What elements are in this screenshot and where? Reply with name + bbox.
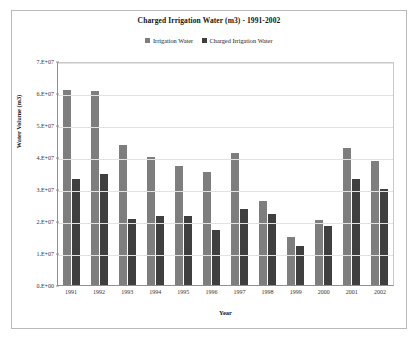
gridline xyxy=(58,191,393,192)
bar xyxy=(343,148,351,285)
legend-item-charged-irrigation-water: Charged Irrigation Water xyxy=(202,37,272,44)
x-axis-tick-labels: 1991199219931994199519961997199819992000… xyxy=(57,289,394,295)
y-axis-tick-label: 0.E+00 xyxy=(36,283,54,289)
bars-layer xyxy=(58,63,393,285)
y-axis-tick-mark xyxy=(56,222,59,223)
chart-legend: Irrigation Water Charged Irrigation Wate… xyxy=(0,37,418,44)
gridline xyxy=(58,95,393,96)
legend-label-charged-irrigation-water: Charged Irrigation Water xyxy=(210,37,273,44)
y-axis-tick-label: 5.E+07 xyxy=(36,123,54,129)
y-axis-tick-mark xyxy=(56,254,59,255)
x-axis-tick-label: 1998 xyxy=(254,289,282,295)
gridline xyxy=(58,255,393,256)
bar-group xyxy=(142,63,170,285)
legend-label-irrigation-water: Irrigation Water xyxy=(153,37,193,44)
y-axis-tick-label: 6.E+07 xyxy=(36,91,54,97)
bar xyxy=(184,216,192,285)
bar-group xyxy=(337,63,365,285)
bar xyxy=(203,172,211,285)
bar-group xyxy=(114,63,142,285)
x-axis-tick-label: 1991 xyxy=(57,289,85,295)
bar xyxy=(352,179,360,285)
y-axis-tick-mark xyxy=(56,94,59,95)
x-axis-tick-label: 2002 xyxy=(366,289,394,295)
chart-title: Charged Irrigation Water (m3) - 1991-200… xyxy=(0,16,418,25)
plot-area xyxy=(57,62,394,286)
bar xyxy=(147,157,155,285)
bar-group xyxy=(365,63,393,285)
bar-group xyxy=(198,63,226,285)
gridline xyxy=(58,127,393,128)
gridline xyxy=(58,223,393,224)
y-axis-title: Water Volume (m3) xyxy=(15,62,22,182)
legend-item-irrigation-water: Irrigation Water xyxy=(145,37,193,44)
x-axis-tick-label: 1999 xyxy=(282,289,310,295)
bar xyxy=(240,209,248,285)
bar xyxy=(72,179,80,285)
x-axis-tick-label: 2000 xyxy=(310,289,338,295)
x-axis-tick-label: 1997 xyxy=(225,289,253,295)
y-axis-tick-label: 1.E+07 xyxy=(36,251,54,257)
bar xyxy=(380,189,388,285)
bar xyxy=(212,230,220,285)
bar xyxy=(156,216,164,285)
bar xyxy=(268,214,276,285)
x-axis-tick-label: 1994 xyxy=(141,289,169,295)
bar-group xyxy=(281,63,309,285)
bar xyxy=(287,237,295,285)
legend-swatch-irrigation-water xyxy=(145,38,150,43)
x-axis-tick-label: 1996 xyxy=(197,289,225,295)
bar xyxy=(119,145,127,285)
y-axis-tick-mark xyxy=(56,62,59,63)
chart-screenshot: Charged Irrigation Water (m3) - 1991-200… xyxy=(0,0,418,339)
bar xyxy=(315,220,323,285)
y-axis-tick-label: 7.E+07 xyxy=(36,59,54,65)
bar-group xyxy=(58,63,86,285)
bar xyxy=(128,219,136,285)
x-axis-tick-label: 1992 xyxy=(85,289,113,295)
legend-swatch-charged-irrigation-water xyxy=(202,38,207,43)
gridline xyxy=(58,159,393,160)
bar xyxy=(175,166,183,285)
y-axis-tick-label: 4.E+07 xyxy=(36,155,54,161)
bar-group xyxy=(86,63,114,285)
y-axis-tick-mark xyxy=(56,286,59,287)
bar xyxy=(259,201,267,285)
bar-group xyxy=(309,63,337,285)
bar xyxy=(296,246,304,285)
x-axis-tick-label: 1995 xyxy=(169,289,197,295)
bar xyxy=(231,153,239,285)
y-axis-tick-label: 3.E+07 xyxy=(36,187,54,193)
bar-group xyxy=(253,63,281,285)
x-axis-tick-label: 1993 xyxy=(113,289,141,295)
y-axis-tick-mark xyxy=(56,190,59,191)
y-axis-tick-mark xyxy=(56,126,59,127)
bar-group xyxy=(170,63,198,285)
x-axis-title: Year xyxy=(57,309,394,316)
x-axis-tick-label: 2001 xyxy=(338,289,366,295)
bar-group xyxy=(226,63,254,285)
y-axis-tick-mark xyxy=(56,158,59,159)
gridline xyxy=(58,63,393,64)
y-axis-tick-label: 2.E+07 xyxy=(36,219,54,225)
